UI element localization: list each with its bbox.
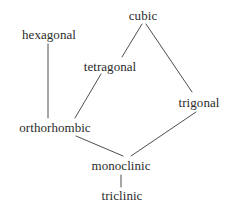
edge-cubic-tetragonal bbox=[122, 24, 142, 57]
node-label-tetragonal: tetragonal bbox=[84, 59, 136, 74]
node-label-trigonal: trigonal bbox=[179, 95, 220, 110]
crystal-system-diagram: cubichexagonaltetragonaltrigonalorthorho… bbox=[0, 0, 231, 206]
node-label-hexagonal: hexagonal bbox=[22, 27, 76, 42]
node-label-cubic: cubic bbox=[129, 8, 157, 23]
edge-cubic-trigonal bbox=[146, 24, 192, 92]
edge-orthorhombic-monoclinic bbox=[76, 136, 123, 156]
edge-trigonal-monoclinic bbox=[131, 112, 196, 156]
edge-tetragonal-orthorhombic bbox=[75, 74, 101, 118]
node-label-triclinic: triclinic bbox=[102, 188, 143, 203]
node-label-monoclinic: monoclinic bbox=[92, 158, 151, 173]
node-label-orthorhombic: orthorhombic bbox=[19, 120, 90, 135]
